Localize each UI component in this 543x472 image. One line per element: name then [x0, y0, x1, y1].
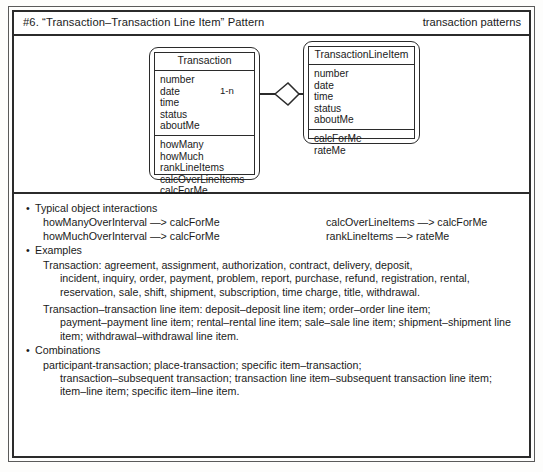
interactions-left-column: howManyOverInterval —> calcForMe howMuch…	[43, 216, 220, 243]
example-lead: Transaction–transaction line item: depos…	[43, 303, 431, 315]
uml-operations-compartment: calcForMe rateMe	[309, 130, 414, 159]
interaction-item: rankLineItems —> rateMe	[326, 230, 487, 244]
interactions-right-column: calcOverLineItems —> calcForMe rankLineI…	[326, 216, 487, 243]
combinations-continuation: transaction–subsequent transaction; tran…	[60, 372, 519, 399]
interaction-item: howManyOverInterval —> calcForMe	[43, 216, 220, 230]
bullet-icon: •	[26, 344, 30, 357]
uml-attribute: status	[160, 109, 254, 121]
page-title: #6. “Transaction–Transaction Line Item” …	[23, 16, 264, 28]
uml-operation: rankLineItems	[160, 162, 254, 174]
uml-attribute: aboutMe	[160, 120, 254, 132]
uml-attribute: time	[160, 97, 254, 109]
uml-class-name: TransactionLineItem	[309, 47, 414, 65]
combinations-entry: participant-transaction; place-transacti…	[43, 359, 519, 399]
uml-class-transactionlineitem[interactable]: TransactionLineItem number date time sta…	[303, 41, 420, 144]
example-continuation: payment–payment line item; rental–rental…	[60, 316, 519, 343]
section-heading-examples: • Examples	[26, 244, 519, 257]
uml-class-transactionlineitem-inner: TransactionLineItem number date time sta…	[308, 46, 415, 139]
uml-attributes-compartment: number date time status aboutMe	[309, 65, 414, 130]
uml-operations-compartment: howMany howMuch rankLineItems calcOverLi…	[155, 136, 254, 200]
uml-class-transaction-inner: Transaction number date time status abou…	[154, 52, 255, 175]
section-heading-label: Combinations	[35, 344, 100, 356]
uml-class-name: Transaction	[155, 53, 254, 71]
uml-attribute: number	[160, 74, 254, 86]
multiplicity-source: 1-n	[220, 85, 234, 96]
uml-operation: calcForMe	[314, 133, 414, 145]
section-heading-label: Examples	[35, 244, 82, 256]
uml-attribute: date	[160, 86, 254, 98]
section-heading-label: Typical object interactions	[35, 202, 157, 214]
section-heading-interactions: • Typical object interactions	[26, 202, 519, 215]
bullet-icon: •	[26, 244, 30, 257]
uml-attribute: time	[314, 91, 414, 103]
card-header: #6. “Transaction–Transaction Line Item” …	[12, 10, 531, 36]
pattern-description: • Typical object interactions howManyOve…	[12, 194, 531, 462]
uml-attribute: date	[314, 80, 414, 92]
uml-attribute: aboutMe	[314, 114, 414, 126]
uml-class-transaction[interactable]: Transaction number date time status abou…	[149, 47, 260, 180]
interaction-item: calcOverLineItems —> calcForMe	[326, 216, 487, 230]
aggregation-diamond-icon	[273, 80, 301, 108]
interactions-columns: howManyOverInterval —> calcForMe howMuch…	[43, 216, 519, 244]
uml-operation: rateMe	[314, 145, 414, 157]
example-entry-line-item: Transaction–transaction line item: depos…	[43, 303, 519, 343]
uml-attribute: number	[314, 68, 414, 80]
uml-operation: howMuch	[160, 151, 254, 163]
category-label: transaction patterns	[423, 16, 521, 28]
uml-diagram: Transaction number date time status abou…	[12, 36, 531, 194]
section-heading-combinations: • Combinations	[26, 344, 519, 357]
uml-attribute: status	[314, 103, 414, 115]
pattern-card-page: #6. “Transaction–Transaction Line Item” …	[0, 0, 543, 472]
example-lead: Transaction: agreement, assignment, auth…	[43, 259, 413, 271]
interaction-item: howMuchOverInterval —> calcForMe	[43, 230, 220, 244]
uml-operation: calcOverLineItems	[160, 174, 254, 186]
uml-operation: howMany	[160, 139, 254, 151]
example-entry-transaction: Transaction: agreement, assignment, auth…	[43, 259, 519, 299]
bullet-icon: •	[26, 202, 30, 215]
uml-attributes-compartment: number date time status aboutMe	[155, 71, 254, 136]
example-continuation: incident, inquiry, order, payment, probl…	[60, 272, 519, 299]
combinations-lead: participant-transaction; place-transacti…	[43, 359, 361, 371]
